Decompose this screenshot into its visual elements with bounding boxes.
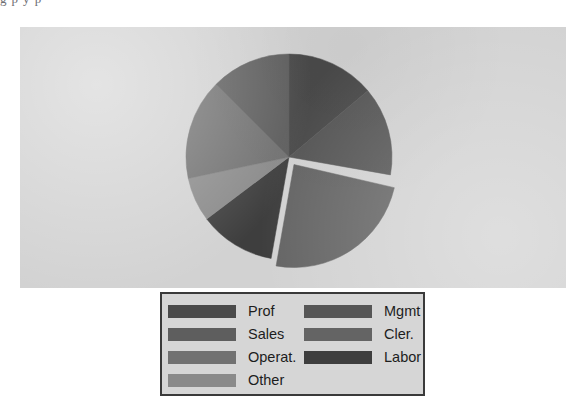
legend-swatch-mgmt bbox=[304, 305, 372, 318]
legend-swatch-prof bbox=[168, 305, 236, 318]
legend-label: Sales bbox=[248, 327, 284, 342]
legend-label: Mgmt bbox=[384, 304, 420, 319]
legend-label: Cler. bbox=[384, 327, 414, 342]
legend-swatch-sales bbox=[168, 328, 236, 341]
legend-column-right: MgmtCler.Labor bbox=[304, 300, 421, 369]
legend-swatch-other bbox=[168, 374, 236, 387]
legend-item[interactable]: Cler. bbox=[304, 323, 421, 346]
legend-swatch-operat bbox=[168, 351, 236, 364]
legend-label: Prof bbox=[248, 304, 275, 319]
legend: ProfSalesOperat.Other MgmtCler.Labor bbox=[160, 292, 425, 396]
legend-column-left: ProfSalesOperat.Other bbox=[168, 300, 296, 392]
legend-swatch-labor bbox=[304, 351, 372, 364]
legend-item[interactable]: Other bbox=[168, 369, 296, 392]
legend-label: Other bbox=[248, 373, 284, 388]
legend-label: Labor bbox=[384, 350, 421, 365]
clipped-header-text: g p y p bbox=[0, 0, 583, 9]
legend-item[interactable]: Labor bbox=[304, 346, 421, 369]
legend-item[interactable]: Sales bbox=[168, 323, 296, 346]
legend-item[interactable]: Prof bbox=[168, 300, 296, 323]
legend-label: Operat. bbox=[248, 350, 296, 365]
pie-chart bbox=[20, 27, 566, 288]
pie-slice-cler[interactable] bbox=[276, 165, 394, 268]
chart-panel bbox=[20, 27, 566, 288]
legend-item[interactable]: Operat. bbox=[168, 346, 296, 369]
legend-swatch-cler bbox=[304, 328, 372, 341]
legend-item[interactable]: Mgmt bbox=[304, 300, 421, 323]
pie-slice-group bbox=[186, 54, 394, 268]
